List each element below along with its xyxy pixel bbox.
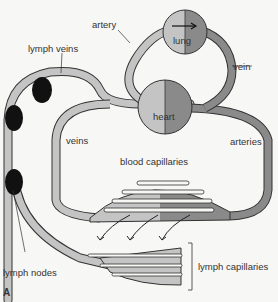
blood-capillaries (90, 181, 230, 222)
lung (163, 10, 207, 54)
label-veins: veins (66, 136, 88, 146)
heart (138, 80, 192, 134)
lymph-capillaries (88, 243, 192, 290)
label-lymph-nodes: lymph nodes (3, 268, 57, 278)
label-arteries: arteries (230, 137, 262, 147)
label-lymph-capillaries: lymph capillaries (198, 262, 268, 272)
label-lung: lung (173, 36, 191, 46)
figure-label: A (3, 287, 10, 298)
veins-vessel (56, 104, 110, 218)
label-blood-capillaries: blood capillaries (120, 157, 188, 167)
label-lymph-veins: lymph veins (28, 44, 78, 54)
label-heart: heart (153, 112, 175, 122)
label-artery: artery (92, 20, 116, 30)
label-vein: vein (233, 62, 250, 72)
